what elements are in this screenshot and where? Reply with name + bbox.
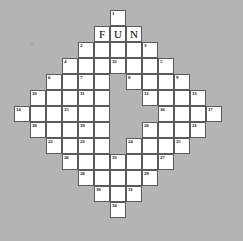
crossword-cell[interactable]: 6 [46, 74, 62, 90]
crossword-cell[interactable] [158, 90, 174, 106]
crossword-cell[interactable]: 23 [78, 138, 94, 154]
cell-number: 1 [112, 11, 114, 17]
crossword-cell[interactable] [94, 42, 110, 58]
crossword-cell[interactable] [142, 154, 158, 170]
crossword-cell[interactable]: 3 [142, 42, 158, 58]
cell-number: 9 [176, 75, 178, 81]
cell-number: 24 [128, 139, 133, 145]
crossword-cell[interactable] [46, 90, 62, 106]
crossword-cell[interactable]: 22 [46, 138, 62, 154]
crossword-cell[interactable] [158, 138, 174, 154]
cell-number: 27 [160, 155, 165, 161]
crossword-cell[interactable]: 11 [78, 90, 94, 106]
cell-number: 22 [48, 139, 53, 145]
crossword-cell[interactable]: 10 [30, 90, 46, 106]
crossword-cell[interactable]: 25 [174, 138, 190, 154]
crossword-cell[interactable]: 30 [94, 186, 110, 202]
crossword-cell[interactable] [174, 90, 190, 106]
crossword-cell[interactable]: 24 [126, 138, 142, 154]
cell-number: 12 [144, 91, 149, 97]
crossword-cell[interactable]: 12 [142, 90, 158, 106]
crossword-cell[interactable] [174, 106, 190, 122]
crossword-cell[interactable] [62, 74, 78, 90]
crossword-cell[interactable] [78, 106, 94, 122]
crossword-cell[interactable] [62, 122, 78, 138]
crossword-cell[interactable] [158, 74, 174, 90]
cell-number: 16 [160, 107, 165, 113]
crossword-cell[interactable]: 2 [78, 42, 94, 58]
crossword-cell[interactable] [46, 122, 62, 138]
crossword-cell[interactable] [110, 42, 126, 58]
cell-number: 19 [80, 123, 85, 129]
crossword-cell[interactable] [126, 58, 142, 74]
crossword-cell[interactable] [174, 122, 190, 138]
crossword-cell[interactable]: 19 [78, 122, 94, 138]
crossword-cell[interactable]: 32 [110, 58, 126, 74]
cell-number: 13 [192, 91, 197, 97]
crossword-cell[interactable] [94, 122, 110, 138]
cell-letter: F [95, 27, 109, 41]
crossword-cell[interactable] [94, 58, 110, 74]
crossword-cell[interactable]: 8 [126, 74, 142, 90]
crossword-cell[interactable] [94, 74, 110, 90]
cell-number: 11 [80, 91, 84, 97]
crossword-cell[interactable] [158, 122, 174, 138]
crossword-cell[interactable] [94, 154, 110, 170]
crossword-cell[interactable]: U [110, 26, 126, 42]
crossword-cell[interactable] [78, 154, 94, 170]
crossword-cell[interactable] [142, 74, 158, 90]
crossword-cell[interactable]: 13 [190, 90, 206, 106]
crossword-cell[interactable]: 31 [126, 186, 142, 202]
crossword-cell[interactable] [94, 106, 110, 122]
crossword-cell[interactable] [94, 90, 110, 106]
crossword-cell[interactable]: 26 [62, 154, 78, 170]
crossword-cell[interactable] [126, 42, 142, 58]
crossword-cell[interactable]: F [94, 26, 110, 42]
crossword-cell[interactable] [190, 106, 206, 122]
crossword-cell[interactable] [110, 170, 126, 186]
crossword-cell[interactable] [142, 138, 158, 154]
cell-number: 7 [80, 75, 82, 81]
crossword-cell[interactable]: 4 [62, 58, 78, 74]
crossword-cell[interactable]: 29 [142, 170, 158, 186]
crossword-cell[interactable] [46, 106, 62, 122]
crossword-cell[interactable]: 15 [62, 106, 78, 122]
crossword-cell[interactable]: 20 [142, 122, 158, 138]
cell-number: 3 [144, 43, 146, 49]
cell-number: 5 [160, 59, 162, 65]
crossword-cell[interactable]: 21 [190, 122, 206, 138]
cell-number: 8 [128, 75, 130, 81]
crossword-cell[interactable]: 1 [110, 10, 126, 26]
cell-number: 4 [64, 59, 66, 65]
crossword-cell[interactable]: 14 [14, 106, 30, 122]
crossword-cell[interactable]: N [126, 26, 142, 42]
crossword-cell[interactable] [126, 154, 142, 170]
cell-number: 30 [96, 187, 101, 193]
crossword-cell[interactable]: 9 [174, 74, 190, 90]
crossword-cell[interactable]: 34 [110, 202, 126, 218]
cell-number: 31 [128, 187, 133, 193]
crossword-cell[interactable]: 27 [158, 154, 174, 170]
crossword-cell[interactable]: 33 [110, 154, 126, 170]
crossword-cell[interactable]: 5 [158, 58, 174, 74]
cell-letter: U [111, 27, 125, 41]
crossword-cell[interactable] [62, 138, 78, 154]
crossword-cell[interactable]: 17 [206, 106, 222, 122]
crossword-cell[interactable]: 16 [158, 106, 174, 122]
crossword-cell[interactable] [62, 90, 78, 106]
crossword-cell[interactable]: 7 [78, 74, 94, 90]
crossword-cell[interactable] [94, 138, 110, 154]
crossword-puzzle: 1FUN234325678910111213141516171819202122… [0, 0, 243, 241]
crossword-cell[interactable] [126, 170, 142, 186]
crossword-cell[interactable] [78, 58, 94, 74]
crossword-grid[interactable]: 1FUN234325678910111213141516171819202122… [0, 0, 243, 241]
cell-number: 15 [64, 107, 69, 113]
crossword-cell[interactable]: 18 [30, 122, 46, 138]
crossword-cell[interactable] [142, 58, 158, 74]
crossword-cell[interactable] [94, 170, 110, 186]
crossword-cell[interactable] [30, 106, 46, 122]
crossword-cell[interactable]: 28 [78, 170, 94, 186]
cell-number: 21 [192, 123, 197, 129]
cell-number: 26 [64, 155, 69, 161]
crossword-cell[interactable] [110, 186, 126, 202]
